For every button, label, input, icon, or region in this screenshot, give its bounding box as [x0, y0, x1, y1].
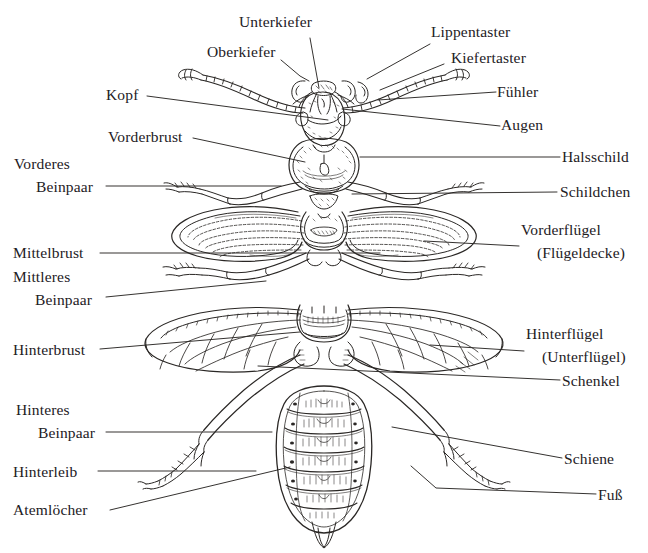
label-hinterfluegel: Hinterflügel (Unterflügel) — [526, 322, 626, 369]
label-kopf: Kopf — [106, 85, 138, 105]
label-vorderes-beinpaar: Vorderes Beinpaar — [14, 152, 93, 199]
label-hinteres-line2: Beinpaar — [16, 421, 95, 444]
insect-illustration — [0, 0, 648, 553]
label-halsschild: Halsschild — [562, 147, 629, 167]
label-vorderbrust: Vorderbrust — [108, 127, 183, 147]
label-hinteres-beinpaar: Hinteres Beinpaar — [16, 398, 95, 445]
leader-lines — [98, 38, 596, 510]
label-mittleres-line2: Beinpaar — [13, 288, 92, 311]
label-mittelbrust: Mittelbrust — [13, 243, 84, 263]
label-atemloecher: Atemlöcher — [13, 500, 88, 520]
label-kiefertaster: Kiefertaster — [451, 48, 526, 68]
metathorax-group — [145, 305, 503, 372]
label-mittleres-line1: Mittleres — [13, 268, 70, 285]
abdomen-group — [276, 386, 371, 548]
label-unterkiefer: Unterkiefer — [239, 12, 312, 32]
label-vorderfluegel: Vorderflügel (Flügeldecke) — [521, 218, 625, 265]
label-augen: Augen — [501, 115, 543, 135]
label-vorderes-line2: Beinpaar — [14, 175, 93, 198]
label-hinterbrust: Hinterbrust — [13, 340, 85, 360]
diagram-canvas: Unterkiefer Oberkiefer Lippentaster Kief… — [0, 0, 648, 553]
antenna-right — [343, 69, 469, 113]
label-mittleres-beinpaar: Mittleres Beinpaar — [13, 265, 92, 312]
label-fuehler: Fühler — [497, 82, 538, 102]
label-lippentaster: Lippentaster — [431, 22, 510, 42]
antenna-left — [179, 69, 305, 113]
label-hinteres-line1: Hinteres — [16, 401, 70, 418]
head-group — [179, 69, 470, 152]
label-hinterfluegel-line1: Hinterflügel — [526, 325, 604, 342]
label-hinterleib: Hinterleib — [13, 462, 77, 482]
label-vorderes-line1: Vorderes — [14, 155, 70, 172]
label-vorderfluegel-line2: (Flügeldecke) — [521, 241, 625, 264]
middle-legs — [163, 250, 485, 280]
label-oberkiefer: Oberkiefer — [207, 42, 276, 62]
label-schenkel: Schenkel — [562, 371, 620, 391]
label-schildchen: Schildchen — [560, 182, 630, 202]
label-hinterfluegel-line2: (Unterflügel) — [526, 345, 626, 368]
pronotum-group — [289, 138, 359, 194]
mesothorax-group — [172, 194, 477, 262]
label-fuss: Fuß — [598, 485, 623, 505]
label-vorderfluegel-line1: Vorderflügel — [521, 221, 601, 238]
label-schiene: Schiene — [564, 449, 614, 469]
